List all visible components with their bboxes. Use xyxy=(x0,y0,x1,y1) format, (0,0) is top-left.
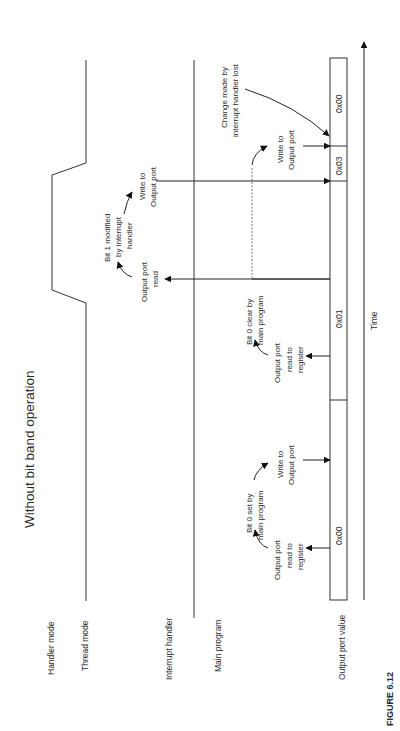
isr-read-label: Output port xyxy=(140,261,149,302)
write1-label: Output port xyxy=(287,444,296,485)
register-value: 0x00 xyxy=(334,526,344,545)
read1-label: Output port xyxy=(273,539,282,580)
read1-label: read to xyxy=(285,543,294,568)
bit1mod-label: by interrupt xyxy=(114,216,123,257)
register-value: 0x01 xyxy=(334,309,344,328)
change-lost-label: Change made by xyxy=(220,67,229,128)
write2-label: Output port xyxy=(287,129,296,170)
change-lost-label: interrupt handler lost xyxy=(231,63,240,137)
bit0set-label: main program xyxy=(256,490,265,540)
register-bar xyxy=(330,58,347,600)
isr-read-label: read xyxy=(151,271,160,287)
figure-title: Without bit band operation xyxy=(22,370,37,528)
register-value: 0x00 xyxy=(334,94,344,113)
bit-band-timing-diagram: Without bit band operation Handler mode … xyxy=(0,0,400,731)
lane-label-thread-mode: Thread mode xyxy=(80,620,90,671)
read2-label: Output port xyxy=(273,342,282,383)
read2-label: read to xyxy=(285,347,294,372)
isr-write-label: Output port xyxy=(149,166,158,207)
lane-label-main-program: Main program xyxy=(213,620,223,672)
bit1mod-label: handler xyxy=(125,222,134,249)
time-axis-label: Time xyxy=(369,311,379,330)
processor-mode-trace xyxy=(52,60,86,601)
bit0set-to-write-arrow xyxy=(254,463,268,480)
figure-caption: FIGURE 6.12 xyxy=(385,672,395,726)
bit0clear-to-write-arrow xyxy=(252,146,267,165)
change-lost-curved-arrow xyxy=(245,89,329,136)
bit1mod-label: Bit 1 modified xyxy=(103,214,112,262)
read2-label: register xyxy=(296,346,305,373)
register-value: 0x03 xyxy=(334,156,344,175)
lane-label-output-port-value: Output port value xyxy=(337,615,347,680)
bit0clear-label: Bit 0 clear by xyxy=(245,299,254,345)
bit1mod-curved-arrow xyxy=(118,262,132,277)
bit0clear-label: main program xyxy=(256,295,265,345)
bit0set-label: Bit 0 set by xyxy=(245,493,254,533)
bit1mod-to-write-arrow xyxy=(124,192,132,214)
write2-label: Write to xyxy=(276,135,285,163)
write1-label: Write to xyxy=(276,450,285,478)
isr-write-label: Write to xyxy=(138,172,147,200)
lane-label-interrupt-handler: Interrupt handler xyxy=(164,617,174,680)
lane-label-handler-mode: Handler mode xyxy=(46,621,56,675)
read1-label: register xyxy=(296,543,305,570)
